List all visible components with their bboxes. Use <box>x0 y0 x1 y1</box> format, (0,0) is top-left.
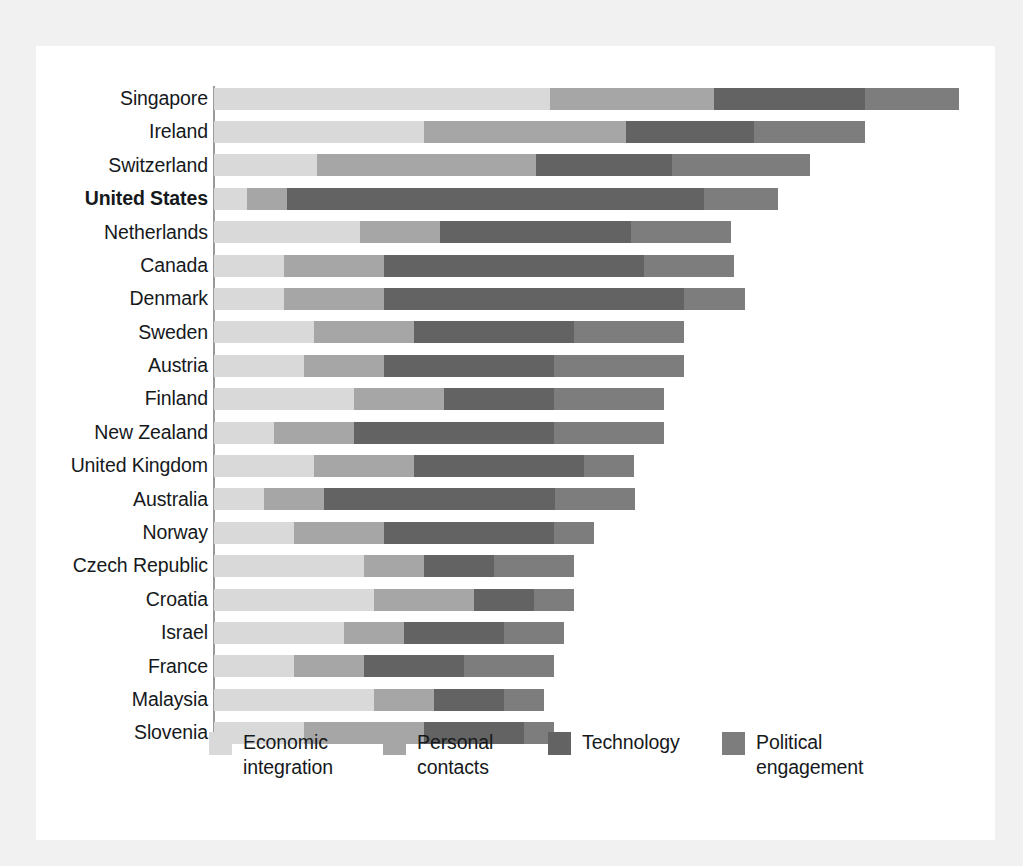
bar-segment-economic-integration <box>214 455 314 477</box>
chart-row: New Zealand <box>36 416 995 449</box>
stacked-bar <box>214 288 984 310</box>
chart-row: Denmark <box>36 282 995 315</box>
bar-segment-technology <box>444 388 554 410</box>
bar-segment-technology <box>714 88 864 110</box>
bar-segment-personal-contacts <box>374 589 474 611</box>
category-label-france: France <box>36 657 208 677</box>
stacked-bar <box>214 188 984 210</box>
bar-segment-personal-contacts <box>247 188 287 210</box>
bar-segment-technology <box>287 188 704 210</box>
bar-segment-personal-contacts <box>550 88 715 110</box>
legend-item-economic-integration[interactable]: Economic integration <box>209 730 333 780</box>
category-label-united-kingdom: United Kingdom <box>36 456 208 476</box>
chart-row: Czech Republic <box>36 549 995 582</box>
bar-segment-political-engagement <box>464 655 554 677</box>
bar-segment-technology <box>364 655 464 677</box>
bar-segment-technology <box>324 488 555 510</box>
bar-segment-technology <box>384 522 554 544</box>
chart-row: Sweden <box>36 316 995 349</box>
bar-segment-economic-integration <box>214 221 360 243</box>
category-label-czech-republic: Czech Republic <box>36 556 208 576</box>
legend-swatch-icon <box>209 732 232 755</box>
bar-segment-personal-contacts <box>424 121 626 143</box>
bar-segment-political-engagement <box>554 522 594 544</box>
category-label-finland: Finland <box>36 389 208 409</box>
stacked-bar <box>214 622 984 644</box>
bar-segment-political-engagement <box>584 455 634 477</box>
bar-segment-political-engagement <box>554 422 664 444</box>
bar-segment-personal-contacts <box>264 488 324 510</box>
category-label-israel: Israel <box>36 623 208 643</box>
chart-row: France <box>36 650 995 683</box>
stacked-bar <box>214 655 984 677</box>
chart-row: Australia <box>36 483 995 516</box>
bar-segment-political-engagement <box>631 221 731 243</box>
bar-segment-economic-integration <box>214 288 284 310</box>
bar-segment-political-engagement <box>865 88 960 110</box>
stacked-bar <box>214 689 984 711</box>
bar-segment-personal-contacts <box>314 455 414 477</box>
legend-swatch-icon <box>548 732 571 755</box>
bar-segment-political-engagement <box>574 321 684 343</box>
chart-row: Israel <box>36 616 995 649</box>
bar-segment-personal-contacts <box>304 355 384 377</box>
chart-row: Austria <box>36 349 995 382</box>
bar-segment-technology <box>414 455 584 477</box>
chart-row: Ireland <box>36 115 995 148</box>
bar-segment-economic-integration <box>214 589 374 611</box>
bar-segment-personal-contacts <box>354 388 444 410</box>
category-label-malaysia: Malaysia <box>36 690 208 710</box>
bar-segment-economic-integration <box>214 255 284 277</box>
bar-segment-economic-integration <box>214 154 317 176</box>
bar-segment-technology <box>474 589 534 611</box>
bar-segment-economic-integration <box>214 622 344 644</box>
category-label-norway: Norway <box>36 523 208 543</box>
bar-segment-technology <box>414 321 574 343</box>
legend-label: Economic integration <box>243 730 333 780</box>
category-label-ireland: Ireland <box>36 122 208 142</box>
bar-segment-political-engagement <box>754 121 866 143</box>
bar-segment-political-engagement <box>504 622 564 644</box>
bar-segment-technology <box>404 622 504 644</box>
bar-segment-economic-integration <box>214 88 550 110</box>
stacked-bar <box>214 121 984 143</box>
chart-row: Croatia <box>36 583 995 616</box>
stacked-bar-chart: SingaporeIrelandSwitzerlandUnited States… <box>36 46 995 840</box>
legend-item-personal-contacts[interactable]: Personal contacts <box>383 730 493 780</box>
legend-item-political-engagement[interactable]: Political engagement <box>722 730 863 780</box>
bar-segment-personal-contacts <box>274 422 354 444</box>
stacked-bar <box>214 422 984 444</box>
bar-segment-political-engagement <box>494 555 574 577</box>
bar-segment-technology <box>424 555 494 577</box>
stacked-bar <box>214 589 984 611</box>
stacked-bar <box>214 488 984 510</box>
category-label-united-states: United States <box>36 189 208 209</box>
category-label-switzerland: Switzerland <box>36 156 208 176</box>
bar-segment-political-engagement <box>504 689 544 711</box>
chart-row: United Kingdom <box>36 449 995 482</box>
bar-segment-personal-contacts <box>374 689 434 711</box>
category-label-austria: Austria <box>36 356 208 376</box>
category-label-new-zealand: New Zealand <box>36 423 208 443</box>
legend-item-technology[interactable]: Technology <box>548 730 680 755</box>
chart-row: Finland <box>36 383 995 416</box>
bar-segment-economic-integration <box>214 121 424 143</box>
bar-segment-technology <box>434 689 504 711</box>
legend-swatch-icon <box>722 732 745 755</box>
chart-panel: SingaporeIrelandSwitzerlandUnited States… <box>36 46 995 840</box>
bar-segment-personal-contacts <box>317 154 536 176</box>
stacked-bar <box>214 455 984 477</box>
bar-segment-technology <box>354 422 553 444</box>
bar-segment-economic-integration <box>214 555 364 577</box>
bar-segment-economic-integration <box>214 355 304 377</box>
bar-segment-political-engagement <box>704 188 779 210</box>
stacked-bar <box>214 355 984 377</box>
bar-segment-technology <box>626 121 754 143</box>
stacked-bar <box>214 522 984 544</box>
chart-row: Singapore <box>36 82 995 115</box>
bar-segment-technology <box>384 255 644 277</box>
bar-segment-personal-contacts <box>294 522 384 544</box>
bar-segment-personal-contacts <box>284 288 384 310</box>
bar-segment-personal-contacts <box>364 555 424 577</box>
category-label-sweden: Sweden <box>36 323 208 343</box>
